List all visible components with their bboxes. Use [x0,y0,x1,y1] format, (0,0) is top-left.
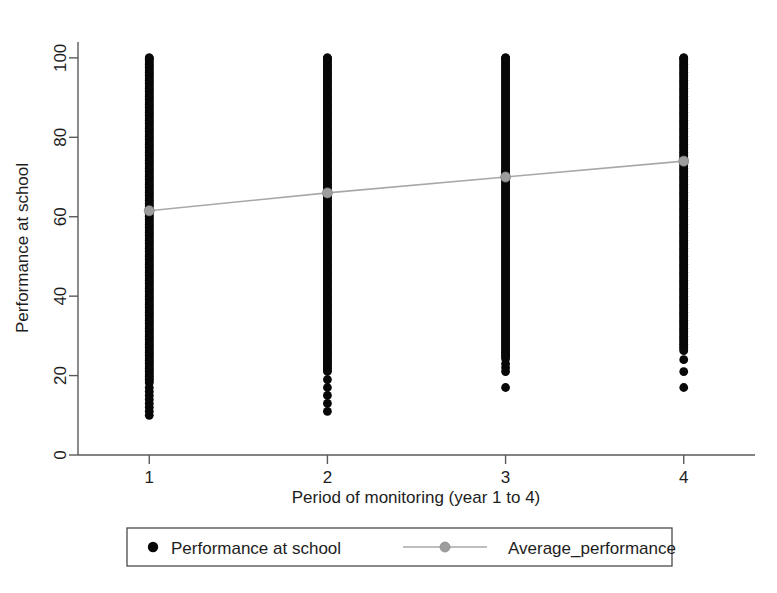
scatter-point [323,367,332,376]
scatter-column [145,53,154,419]
scatter-point [501,53,510,62]
legend-label-performance-at-school: Performance at school [171,539,341,558]
y-tick-label: 20 [51,366,70,385]
scatter-point [145,53,154,62]
scatter-point [323,391,332,400]
scatter-point [679,346,688,355]
average-performance-point [144,206,154,216]
scatter-point [501,359,510,368]
average-performance-point [322,188,332,198]
y-tick-label: 40 [51,287,70,306]
average-performance-line [149,161,683,211]
legend-marker-average-performance-dot-icon [440,542,450,552]
scatter-plot-svg: 020406080100 1234 Performance at school … [0,0,777,593]
average-performance-point [679,156,689,166]
y-tick-label: 0 [51,450,70,459]
line-series-average-performance [144,156,688,216]
scatter-point [323,399,332,408]
chart-legend: Performance at school Average_performanc… [127,528,676,566]
scatter-point [323,407,332,416]
scatter-point [679,355,688,364]
average-performance-point [501,172,511,182]
scatter-column [679,53,688,391]
scatter-point [679,383,688,392]
x-axis-title: Period of monitoring (year 1 to 4) [292,488,541,507]
scatter-point [323,53,332,62]
x-tick-label: 3 [501,468,510,487]
scatter-column [323,53,332,415]
scatter-point [323,383,332,392]
scatter-point [679,53,688,62]
scatter-point [679,367,688,376]
x-tick-label: 2 [323,468,332,487]
scatter-series-performance-at-school [145,53,688,419]
legend-marker-performance-at-school-icon [148,542,158,552]
x-axis-ticks: 1234 [145,455,689,487]
y-axis-ticks: 020406080100 [51,44,78,460]
y-tick-label: 100 [51,44,70,72]
scatter-point [145,383,154,392]
y-tick-label: 60 [51,207,70,226]
chart-figure: 020406080100 1234 Performance at school … [0,0,777,593]
y-tick-label: 80 [51,128,70,147]
scatter-point [323,375,332,384]
x-tick-label: 4 [679,468,688,487]
scatter-point [501,383,510,392]
y-axis-title: Performance at school [13,163,32,333]
scatter-column [501,53,510,391]
axes [78,42,755,455]
x-tick-label: 1 [145,468,154,487]
legend-label-average-performance: Average_performance [508,539,676,558]
